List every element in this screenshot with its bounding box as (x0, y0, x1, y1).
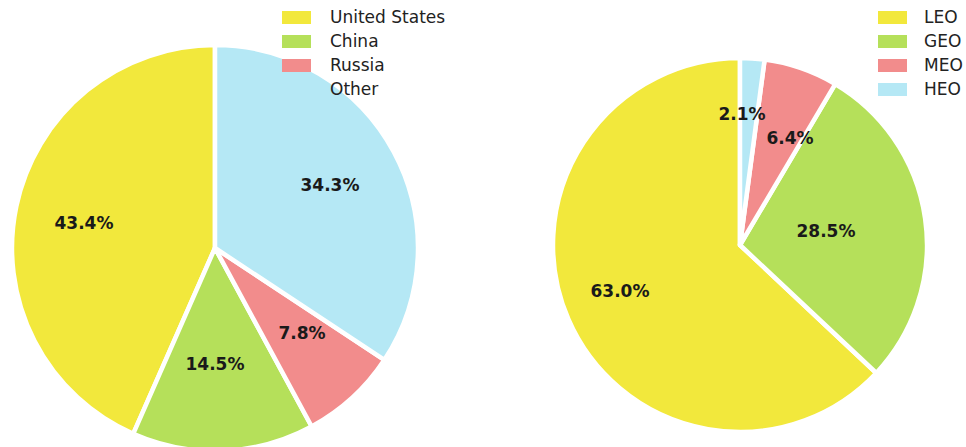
legend-swatch-china (282, 35, 311, 48)
legend-swatch-other (282, 83, 311, 96)
legend-item-other[interactable]: Other (282, 78, 445, 100)
legend-label-united-states: United States (330, 9, 445, 26)
pie-value-label-heo: 2.1% (718, 104, 765, 124)
legend-label-china: China (330, 33, 379, 50)
legend-item-geo[interactable]: GEO (878, 30, 963, 52)
legend-item-leo[interactable]: LEO (878, 6, 963, 28)
pie-value-label-united-states: 43.4% (55, 213, 114, 233)
legend-label-other: Other (330, 81, 378, 98)
pie-value-label-other: 34.3% (301, 175, 360, 195)
legend-label-geo: GEO (924, 33, 961, 50)
legend-label-meo: MEO (924, 57, 963, 74)
pie-value-label-meo: 6.4% (766, 128, 813, 148)
legend-item-meo[interactable]: MEO (878, 54, 963, 76)
pie-value-label-leo: 63.0% (591, 281, 650, 301)
pie-chart-figure: 43.4%14.5%7.8%34.3% United States China … (0, 0, 966, 447)
legend-item-china[interactable]: China (282, 30, 445, 52)
legend-swatch-leo (878, 11, 907, 24)
orbit-legend: LEO GEO MEO HEO (878, 6, 963, 100)
legend-swatch-geo (878, 35, 907, 48)
pie-value-label-china: 14.5% (186, 354, 245, 374)
legend-swatch-heo (878, 83, 907, 96)
legend-item-united-states[interactable]: United States (282, 6, 445, 28)
legend-swatch-meo (878, 59, 907, 72)
legend-label-heo: HEO (924, 81, 961, 98)
pie-value-label-russia: 7.8% (278, 323, 325, 343)
legend-swatch-united-states (282, 11, 311, 24)
legend-item-heo[interactable]: HEO (878, 78, 963, 100)
country-legend: United States China Russia Other (282, 6, 445, 100)
pie-value-label-geo: 28.5% (797, 221, 856, 241)
chart-panel-country: 43.4%14.5%7.8%34.3% United States China … (0, 0, 483, 447)
legend-item-russia[interactable]: Russia (282, 54, 445, 76)
legend-swatch-russia (282, 59, 311, 72)
legend-label-leo: LEO (924, 9, 958, 26)
legend-label-russia: Russia (330, 57, 385, 74)
